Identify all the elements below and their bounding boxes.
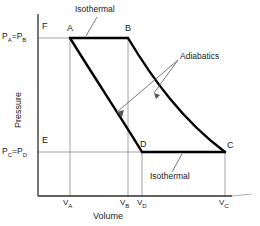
annotation-isothermal-top: Isothermal — [75, 5, 115, 14]
pv-diagram-canvas — [0, 0, 260, 226]
process-da-adiabatic — [70, 38, 142, 152]
pv-diagram-figure: PA=PB PC=PD F E A B C D VA VB VD VC Volu… — [0, 0, 260, 226]
volume-tick-vc-sub: C — [224, 203, 228, 209]
arrowhead-adiabatics-right — [154, 93, 160, 99]
leader-isothermal-top — [86, 17, 97, 36]
y-axis-title: Pressure — [14, 92, 23, 128]
volume-tick-vd: VD — [137, 199, 147, 209]
axes — [38, 14, 232, 196]
pressure-label-low: PC=PD — [2, 147, 27, 158]
volume-tick-va: VA — [63, 199, 72, 209]
cycle-point-b: B — [125, 24, 131, 33]
x-axis-title: Volume — [93, 212, 123, 221]
volume-tick-va-sub: A — [68, 203, 72, 209]
leader-arrowheads — [117, 93, 160, 117]
volume-tick-vc: VC — [219, 199, 229, 209]
leader-isothermal-bottom — [172, 154, 182, 172]
volume-tick-vb: VB — [120, 199, 129, 209]
volume-tick-vb-sub: B — [125, 203, 129, 209]
gridline-marker-f: F — [42, 22, 48, 31]
annotation-isothermal-bottom: Isothermal — [150, 172, 190, 181]
pressure-label-high: PA=PB — [2, 32, 26, 43]
pressure-high-eq: =P — [12, 31, 23, 41]
annotation-adiabatics: Adiabatics — [180, 52, 219, 61]
leader-adiabatics-right — [154, 60, 178, 93]
pressure-low-sub2: D — [23, 152, 27, 158]
pressure-high-sub2: B — [22, 37, 26, 43]
gridline-marker-e: E — [42, 136, 48, 145]
volume-tick-vd-sub: D — [142, 203, 146, 209]
cycle-point-a: A — [67, 24, 73, 33]
x-axis-extension — [232, 194, 252, 196]
pressure-low-eq: =P — [12, 146, 23, 156]
gridlines — [38, 38, 225, 196]
cycle-point-c: C — [227, 141, 234, 150]
cycle-point-d: D — [140, 140, 147, 149]
